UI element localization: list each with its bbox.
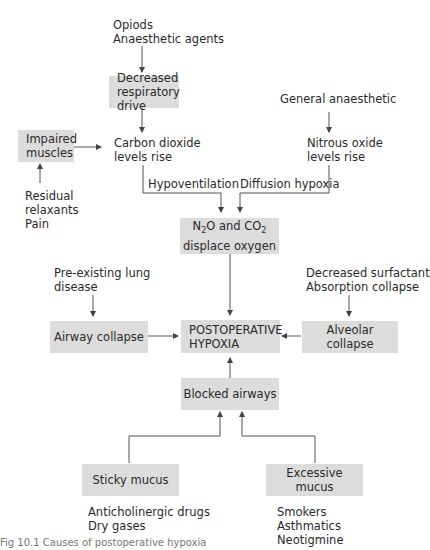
sticky-mucus-box: Sticky mucus xyxy=(82,464,179,496)
airway-collapse-box: Airway collapse xyxy=(50,321,148,353)
general-anaesthetic-label: General anaesthetic xyxy=(280,92,396,106)
blocked-airways-box: Blocked airways xyxy=(181,378,279,410)
excessive-mucus-causes: Smokers Asthmatics Neotigmine xyxy=(277,505,343,547)
alveolar-collapse-box: Alveolar collapse xyxy=(302,321,398,353)
residual-relaxants-label: Residual relaxants Pain xyxy=(25,189,78,231)
pre-existing-lung-disease-label: Pre-existing lung disease xyxy=(54,266,150,294)
n2o-co2-displace-oxygen-box: N2O and CO2 displace oxygen xyxy=(180,218,279,254)
opioids-label: Opiods Anaesthetic agents xyxy=(113,18,224,46)
excessive-mucus-box: Excessive mucus xyxy=(266,464,363,496)
postoperative-hypoxia-box: POSTOPERATIVEHYPOXIA xyxy=(181,320,280,353)
decreased-surfactant-label: Decreased surfactant Absorption collapse xyxy=(306,266,430,294)
diffusion-hypoxia-label: Diffusion hypoxia xyxy=(240,177,340,191)
hypoventilation-label: Hypoventilation xyxy=(148,177,239,191)
n2o-rise-label: Nitrous oxide levels rise xyxy=(307,136,383,164)
co2-rise-label: Carbon dioxide levels rise xyxy=(114,136,201,164)
sticky-mucus-causes: Anticholinergic drugs Dry gases xyxy=(88,505,210,533)
impaired-muscles-box: Impairedmuscles xyxy=(18,130,74,162)
figure-caption: Fig 10.1 Causes of postoperative hypoxia xyxy=(0,537,206,548)
decreased-respiratory-drive-box: Decreasedrespiratory drive xyxy=(109,76,179,108)
